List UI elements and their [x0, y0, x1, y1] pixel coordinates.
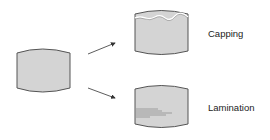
- arrow-to-capping: [88, 43, 115, 54]
- intact-tablet: [17, 49, 70, 92]
- diagram-canvas: [0, 0, 270, 140]
- lamination-label: Lamination: [208, 102, 254, 113]
- lamination-tablet: [135, 86, 188, 128]
- capping-label: Capping: [208, 28, 243, 39]
- arrow-to-lamination: [88, 88, 115, 98]
- capping-tablet: [135, 11, 188, 55]
